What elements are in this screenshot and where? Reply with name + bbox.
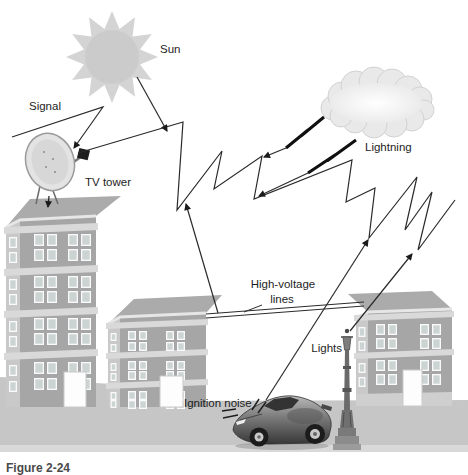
- label-high-voltage-lines: lines: [270, 293, 294, 305]
- label-sun: Sun: [160, 43, 180, 55]
- label-signal: Signal: [29, 100, 61, 112]
- storm-cloud-icon: [321, 67, 434, 138]
- building-right: [348, 291, 454, 406]
- door-right-building: [403, 370, 422, 406]
- building-middle: [106, 295, 222, 409]
- label-lightning: Lightning: [365, 141, 412, 153]
- building-left: [4, 196, 121, 407]
- label-tv-tower: TV tower: [85, 176, 131, 188]
- satellite-dish-icon: [18, 127, 90, 207]
- lightning-bolt-icon: [259, 117, 356, 196]
- label-ignition-noise: Ignition noise: [184, 397, 252, 409]
- figure-caption: Figure 2-24: [6, 461, 70, 475]
- sun-noise-arrow: [137, 77, 167, 131]
- door-middle-building: [160, 376, 183, 407]
- label-high-voltage: High-voltage: [251, 278, 316, 290]
- ignition-noise-arrow: [266, 240, 368, 400]
- door-left-building: [64, 372, 86, 407]
- label-lights: Lights: [311, 342, 342, 354]
